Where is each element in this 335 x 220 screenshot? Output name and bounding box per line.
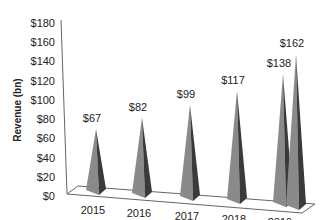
- y-tick-label: $20: [37, 171, 55, 183]
- pyramid-bar-2015: [86, 129, 106, 195]
- pyramid-bar-2016: [132, 118, 152, 198]
- data-label: $117: [221, 74, 245, 86]
- y-tick-label: $100: [31, 94, 55, 106]
- data-label: $82: [129, 101, 147, 113]
- data-label: $99: [177, 88, 195, 100]
- pyramid-bar-2018: [227, 91, 247, 204]
- y-tick-label: $0: [43, 190, 55, 202]
- data-series: [86, 54, 306, 210]
- data-label: $138: [267, 57, 291, 69]
- x-tick-label: 2015: [81, 204, 105, 216]
- data-labels: $67$82$99$117$138$162: [83, 37, 304, 123]
- data-label: $162: [280, 37, 304, 49]
- y-tick-label: $140: [31, 55, 55, 67]
- pyramid-bar-2020: [286, 54, 306, 210]
- x-tick-label: 2020: [281, 219, 305, 220]
- y-axis: $0$20$40$60$80$100$120$140$160$180: [31, 17, 67, 202]
- y-axis-line: [61, 20, 67, 194]
- x-tick-label: 2016: [127, 207, 151, 219]
- y-tick-label: $40: [37, 152, 55, 164]
- y-axis-title: Revenue (bn): [12, 78, 23, 141]
- y-tick-label: $60: [37, 132, 55, 144]
- y-tick-label: $180: [31, 17, 55, 29]
- x-tick-label: 2017: [175, 210, 199, 220]
- y-tick-label: $80: [37, 113, 55, 125]
- revenue-pyramid-chart: $0$20$40$60$80$100$120$140$160$180 $67$8…: [0, 0, 335, 220]
- data-label: $67: [83, 112, 101, 124]
- pyramid-bar-2017: [180, 105, 200, 201]
- x-tick-label: 2018: [222, 213, 246, 220]
- chart-canvas: $0$20$40$60$80$100$120$140$160$180 $67$8…: [0, 0, 335, 220]
- y-tick-label: $120: [31, 75, 55, 87]
- y-tick-label: $160: [31, 36, 55, 48]
